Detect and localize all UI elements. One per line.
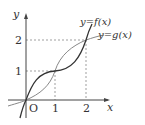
graph: y x O 1 2 1 2 y=f(x) y=g(x) (0, 0, 145, 125)
x-tick-2: 2 (83, 102, 90, 115)
curve-g-label: y=g(x) (97, 29, 132, 40)
y-axis-label: y (12, 8, 20, 21)
y-tick-2: 2 (15, 34, 22, 47)
y-axis-arrow-icon (24, 13, 28, 19)
origin-label: O (29, 102, 38, 115)
guide-lines (26, 40, 86, 100)
x-tick-1: 1 (52, 102, 59, 115)
y-tick-1: 1 (15, 65, 22, 78)
curve-f-label: y=f(x) (79, 16, 111, 27)
x-axis-label: x (107, 101, 114, 114)
